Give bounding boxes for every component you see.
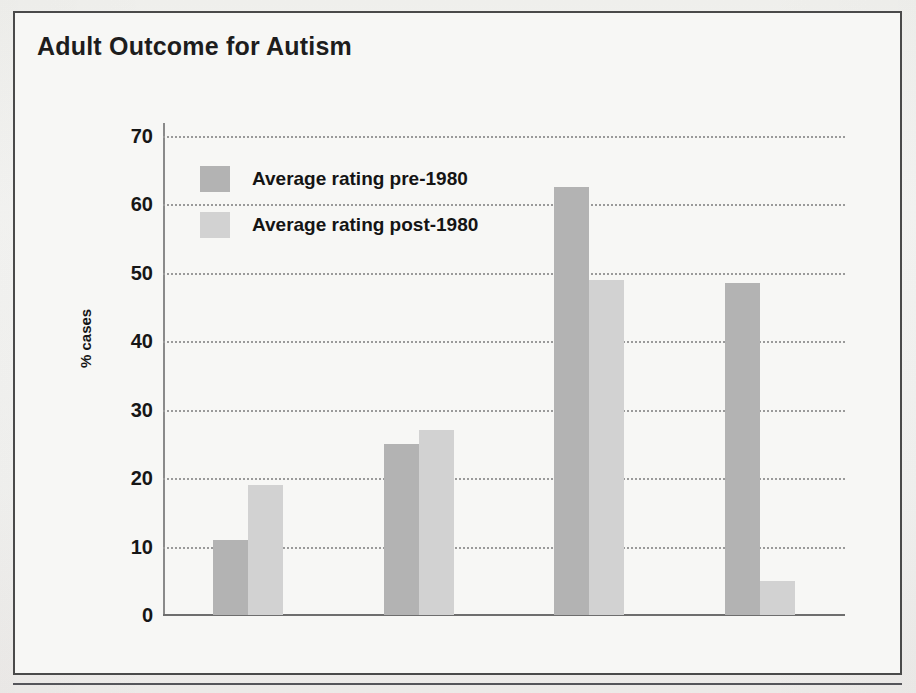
- page-bottom-rule: [13, 683, 902, 685]
- y-axis-title: % cases: [77, 309, 94, 368]
- legend-item-post-1980: Average rating post-1980: [200, 207, 478, 243]
- bar-pre-1980: [725, 283, 760, 615]
- y-axis-tick-label: 20: [131, 467, 153, 490]
- legend-item-pre-1980: Average rating pre-1980: [200, 161, 478, 197]
- bar-pre-1980: [213, 540, 248, 615]
- bar-post-1980: [589, 280, 624, 615]
- y-axis-tick-label: 30: [131, 398, 153, 421]
- bar-pre-1980: [554, 187, 589, 615]
- legend-label-post-1980: Average rating post-1980: [252, 214, 478, 236]
- y-axis-tick-label: 40: [131, 330, 153, 353]
- legend-swatch-icon-pre-1980: [200, 166, 230, 192]
- bar-post-1980: [760, 581, 795, 615]
- y-axis-tick-label: 50: [131, 261, 153, 284]
- y-axis-tick-label: 70: [131, 125, 153, 148]
- chart-legend: Average rating pre-1980 Average rating p…: [200, 161, 478, 253]
- bar-pre-1980: [384, 444, 419, 615]
- legend-swatch-icon-post-1980: [200, 212, 230, 238]
- gridline: [163, 273, 845, 275]
- bar-post-1980: [248, 485, 283, 615]
- bar-post-1980: [419, 430, 454, 615]
- legend-label-pre-1980: Average rating pre-1980: [252, 168, 468, 190]
- y-axis-tick-label: 0: [142, 604, 153, 627]
- figure-frame: Adult Outcome for Autism % cases 0102030…: [13, 11, 902, 675]
- chart-title: Adult Outcome for Autism: [37, 32, 352, 61]
- y-axis-tick-label: 60: [131, 193, 153, 216]
- gridline: [163, 136, 845, 138]
- y-axis-tick-label: 10: [131, 535, 153, 558]
